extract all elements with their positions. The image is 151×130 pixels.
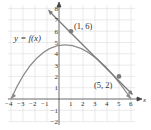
x-tick: 3 — [93, 100, 97, 108]
point-label-1-6: (1, 6) — [74, 21, 93, 31]
x-tick: −1 — [41, 100, 49, 108]
x-tick: −3 — [17, 100, 25, 108]
x-tick: 5 — [117, 100, 121, 108]
y-tick: 1 — [55, 84, 59, 92]
y-tick: 2 — [55, 73, 59, 81]
x-axis-label: x — [142, 96, 147, 104]
y-tick-labels: −2 −1 1 2 3 4 5 6 7 8 — [51, 5, 59, 126]
x-tick: 4 — [105, 100, 109, 108]
x-tick: 6 — [129, 100, 133, 108]
curve-arrow-right-icon — [126, 93, 131, 99]
point-1-6 — [69, 29, 74, 34]
y-tick: −2 — [51, 118, 59, 126]
x-tick: 1 — [69, 100, 73, 108]
x-tick: −4 — [5, 100, 13, 108]
point-label-5-2: (5, 2) — [94, 80, 113, 90]
x-tick-labels: −4 −3 −2 −1 1 2 3 4 5 6 — [5, 100, 133, 108]
y-tick: 4 — [55, 50, 59, 58]
y-tick: 3 — [55, 62, 59, 70]
y-tick: 8 — [55, 5, 59, 13]
x-axis-arrow-icon — [137, 97, 142, 101]
y-tick: 6 — [55, 28, 59, 36]
curve-label: y = f(x) — [13, 33, 41, 43]
y-tick: 7 — [55, 16, 59, 24]
y-tick: 5 — [55, 39, 59, 47]
y-tick: −1 — [51, 107, 59, 115]
graph: y = f(x) (1, 6) (5, 2) x −4 −3 −2 −1 1 2… — [0, 0, 151, 130]
x-tick: 2 — [81, 100, 85, 108]
point-5-2 — [117, 74, 122, 79]
x-tick: −2 — [29, 100, 37, 108]
